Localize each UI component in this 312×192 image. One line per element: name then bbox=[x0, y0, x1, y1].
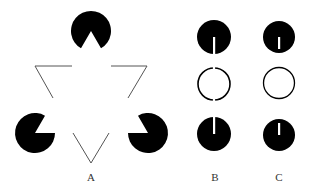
slit-b-top bbox=[213, 37, 215, 55]
panel-label-b: B bbox=[211, 171, 218, 183]
slit-c-bottom bbox=[278, 123, 280, 135]
outline-corner-left bbox=[35, 66, 72, 98]
panel-label-a: A bbox=[87, 171, 95, 183]
ring-c-middle bbox=[264, 68, 295, 99]
slit-b-bottom bbox=[213, 116, 215, 134]
panel-c bbox=[263, 21, 295, 151]
pacman-top bbox=[71, 11, 111, 48]
ring-b-middle bbox=[198, 68, 230, 100]
outline-corner-right bbox=[111, 66, 147, 98]
outline-corner-bottom bbox=[73, 133, 109, 163]
gap-b-ring-bottom bbox=[213, 98, 215, 102]
pacman-bottom-right bbox=[128, 113, 168, 153]
gap-b-ring-top bbox=[213, 66, 215, 70]
panel-b bbox=[197, 20, 231, 151]
slit-c-top bbox=[278, 37, 280, 49]
panel-a bbox=[15, 11, 168, 163]
illusion-figure bbox=[0, 0, 312, 192]
panel-label-c: C bbox=[275, 171, 282, 183]
pacman-bottom-left bbox=[15, 113, 55, 153]
